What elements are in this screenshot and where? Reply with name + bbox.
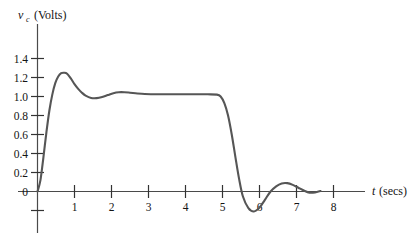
y-axis-title-symbol: v bbox=[18, 8, 24, 22]
y-axis-title-units: (Volts) bbox=[34, 8, 66, 22]
y-tick-label-1.2: 1.2 bbox=[14, 72, 29, 84]
x-tick-label-2: 2 bbox=[109, 201, 115, 213]
y-axis-title-subscript: c bbox=[26, 15, 30, 24]
x-axis-title: t (secs) bbox=[372, 184, 407, 198]
y-axis-tick-labels: 1.4 1.2 1.0 0.8 0.6 0.4 0.2 0 bbox=[14, 53, 29, 198]
chart-figure: 1.4 1.2 1.0 0.8 0.6 0.4 0.2 0 1 2 3 4 5 bbox=[0, 0, 413, 241]
x-axis-title-symbol: t bbox=[372, 184, 376, 198]
x-axis-title-units: (secs) bbox=[379, 184, 407, 198]
y-axis-title: v c (Volts) bbox=[18, 8, 66, 24]
y-tick-label-0.6: 0.6 bbox=[14, 129, 29, 141]
step-response-plot: 1.4 1.2 1.0 0.8 0.6 0.4 0.2 0 1 2 3 4 5 bbox=[0, 0, 413, 241]
y-tick-label-0: 0 bbox=[22, 186, 28, 198]
y-tick-label-0.2: 0.2 bbox=[14, 167, 29, 179]
y-tick-label-0.4: 0.4 bbox=[14, 148, 29, 160]
x-tick-label-8: 8 bbox=[331, 201, 337, 213]
response-curve bbox=[38, 73, 321, 212]
x-tick-label-1: 1 bbox=[72, 201, 78, 213]
x-tick-label-7: 7 bbox=[294, 201, 300, 213]
y-tick-label-1.4: 1.4 bbox=[14, 53, 29, 65]
y-tick-label-1.0: 1.0 bbox=[14, 91, 29, 103]
x-tick-label-5: 5 bbox=[220, 201, 226, 213]
x-axis-tick-labels: 1 2 3 4 5 6 7 8 bbox=[72, 201, 337, 213]
x-tick-label-4: 4 bbox=[183, 201, 189, 213]
x-tick-label-3: 3 bbox=[146, 201, 152, 213]
y-tick-label-0.8: 0.8 bbox=[14, 110, 29, 122]
